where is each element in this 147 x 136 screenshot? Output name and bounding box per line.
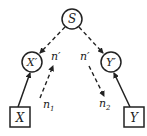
- node-y: Y: [124, 107, 144, 127]
- edge-nprime-to-n2: [89, 66, 104, 96]
- label-n1-subscript: 1: [50, 105, 54, 113]
- label-n2-subscript: 2: [105, 104, 111, 112]
- node-xprime: X′: [22, 52, 42, 72]
- edge-x-to-xprime: [18, 73, 30, 107]
- label-n2: n 2: [99, 97, 111, 112]
- label-n-prime-right: n′: [80, 50, 90, 63]
- node-yprime: Y′: [101, 52, 121, 72]
- label-n-prime-left: n′: [51, 50, 61, 63]
- node-x: X: [10, 107, 30, 127]
- node-x-label: X: [15, 111, 25, 125]
- diagram-canvas: S X′ Y′ X Y n′ n′ n 1 n 2: [0, 0, 147, 136]
- node-xprime-label: X′: [26, 56, 38, 69]
- label-n1: n 1: [43, 98, 54, 113]
- node-y-label: Y: [130, 111, 139, 125]
- edge-y-to-yprime: [114, 73, 130, 107]
- node-s-label: S: [68, 12, 76, 26]
- node-yprime-label: Y′: [106, 56, 116, 69]
- edge-n1-to-nprime: [40, 66, 53, 98]
- node-s: S: [62, 9, 82, 29]
